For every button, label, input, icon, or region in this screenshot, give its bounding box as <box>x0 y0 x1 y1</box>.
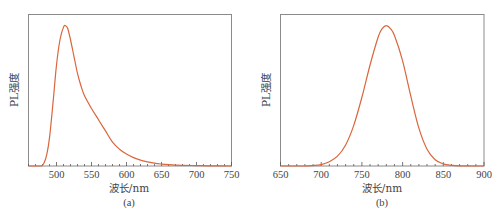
x-tick-label: 750 <box>354 169 370 180</box>
panel-b-x-axis-label: 波长/nm <box>362 182 402 194</box>
panel-a: 500550600650700750 PL强度 波长/nm (a) <box>8 15 239 210</box>
x-tick-label: 900 <box>476 169 492 180</box>
x-tick-label: 800 <box>395 169 411 180</box>
x-tick-label: 600 <box>119 169 135 180</box>
panel-b-caption: (b) <box>376 197 389 209</box>
pl-spectra-figure: 500550600650700750 PL强度 波长/nm (a) 650700… <box>0 0 504 220</box>
panel-a-frame <box>29 15 232 167</box>
panel-a-y-axis-label: PL强度 <box>8 72 20 107</box>
x-tick-label: 500 <box>49 169 65 180</box>
panel-b-y-axis-label: PL强度 <box>260 72 272 107</box>
x-tick-label: 550 <box>84 169 100 180</box>
x-tick-label: 650 <box>273 169 289 180</box>
x-tick-label: 850 <box>435 169 451 180</box>
panel-b-x-tick-labels: 650700750800850900 <box>273 169 492 180</box>
panel-a-caption: (a) <box>123 197 135 209</box>
panel-b-frame <box>281 15 485 167</box>
x-tick-label: 650 <box>154 169 170 180</box>
x-tick-label: 700 <box>189 169 205 180</box>
panel-b: 650700750800850900 PL强度 波长/nm (b) <box>260 15 492 210</box>
x-tick-label: 750 <box>224 169 240 180</box>
x-tick-label: 700 <box>313 169 329 180</box>
panel-b-pl-curve <box>281 26 485 166</box>
panel-a-x-tick-labels: 500550600650700750 <box>49 169 240 180</box>
panel-a-x-axis-label: 波长/nm <box>109 182 149 194</box>
panel-a-pl-curve <box>29 25 232 166</box>
